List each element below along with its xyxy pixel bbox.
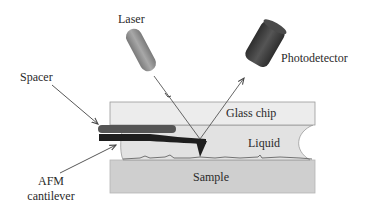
label-afm-cantilever: AFM cantilever (24, 175, 78, 203)
spacer-pointer-arrow (52, 85, 98, 124)
laser-icon (123, 26, 159, 74)
label-photodetector: Photodetector (281, 52, 348, 65)
label-sample: Sample (193, 171, 229, 184)
label-liquid: Liquid (248, 137, 280, 150)
label-afm-line2: cantilever (24, 190, 78, 203)
label-glass-chip: Glass chip (226, 107, 276, 120)
spacer (98, 125, 176, 133)
label-spacer: Spacer (20, 71, 53, 84)
cantilever-pointer-arrow (60, 145, 116, 173)
label-afm-line1: AFM (24, 175, 78, 188)
label-laser: Laser (118, 13, 145, 26)
